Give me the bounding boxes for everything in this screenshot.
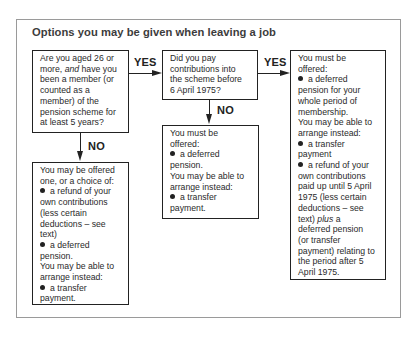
- box-line: deductions – see: [40, 219, 128, 230]
- box-line: the period after 5: [298, 256, 385, 267]
- bullet-item: a transfer: [170, 192, 258, 203]
- yes-connector-2: [258, 73, 282, 74]
- box-line: pension.: [40, 251, 128, 262]
- box-line: pension for your: [298, 85, 385, 96]
- box-line: text) plus a: [298, 214, 385, 225]
- box-line: (less certain: [40, 208, 128, 219]
- box-line: pension scheme for: [40, 107, 128, 118]
- emphasis-and: and: [65, 64, 80, 74]
- box-line: payment.: [40, 293, 128, 304]
- box-line: contributions into: [170, 64, 257, 75]
- box-line: paid up until 5 April: [298, 181, 385, 192]
- emphasis-plus: plus: [317, 214, 333, 224]
- yes-connector-1: [129, 73, 154, 74]
- box-line: own contributions: [40, 197, 128, 208]
- box-line: arrange instead:: [40, 272, 128, 283]
- box-line: member) of the: [40, 96, 128, 107]
- box-line: (or transfer: [298, 235, 385, 246]
- outcome-no-pre-1975-contributions-box: You must be offered: a deferred pension.…: [162, 125, 259, 219]
- bullet-item: a refund of your: [40, 186, 128, 197]
- box-line: at least 5 years?: [40, 117, 128, 128]
- box-line: membership.: [298, 107, 385, 118]
- arrow-down-icon: [77, 151, 83, 161]
- no-label-1: NO: [88, 140, 105, 152]
- box-line: payment.: [170, 203, 258, 214]
- box-line: You must be: [298, 53, 385, 64]
- question-contributions-box: Did you pay contributions into the schem…: [162, 50, 258, 100]
- bullet-item: a transfer: [40, 283, 128, 294]
- box-line: You may be able to: [170, 171, 258, 182]
- outcome-under-26-or-short-membership-box: You may be offered one, or a choice of: …: [32, 162, 129, 305]
- box-line: You may be able to: [40, 261, 128, 272]
- arrow-down-icon: [206, 114, 212, 124]
- box-line: one, or a choice of:: [40, 176, 128, 187]
- box-line: whole period of: [298, 96, 385, 107]
- box-line: arrange instead:: [170, 182, 258, 193]
- box-line: payment: [298, 149, 385, 160]
- question-age-membership-box: Are you aged 26 or more, and have you be…: [32, 50, 129, 133]
- no-label-2: NO: [217, 104, 234, 116]
- yes-label-1: YES: [134, 56, 157, 68]
- box-line: payment) relating to: [298, 246, 385, 257]
- box-line: Did you pay: [170, 53, 257, 64]
- box-line: arrange instead:: [298, 128, 385, 139]
- box-line: text): [40, 229, 128, 240]
- box-line: deductions – see: [298, 203, 385, 214]
- box-line: April 1975.: [298, 267, 385, 278]
- yes-label-2: YES: [264, 56, 287, 68]
- arrow-right-icon: [280, 70, 290, 76]
- box-line: deferred pension: [298, 224, 385, 235]
- box-line: offered:: [298, 64, 385, 75]
- box-line: counted as a: [40, 85, 128, 96]
- bullet-item: a deferred: [40, 240, 128, 251]
- box-line: You may be able to: [298, 117, 385, 128]
- no-connector-1: [80, 133, 81, 153]
- box-line: pension.: [170, 160, 258, 171]
- box-line: offered:: [170, 139, 258, 150]
- box-line: been a member (or: [40, 74, 128, 85]
- box-line: You may be offered: [40, 165, 128, 176]
- box-line: Are you aged 26 or: [40, 53, 128, 64]
- box-line: 1975 (less certain: [298, 192, 385, 203]
- arrow-right-icon: [152, 70, 162, 76]
- bullet-item: a refund of your: [298, 160, 385, 171]
- box-line: 6 April 1975?: [170, 85, 257, 96]
- bullet-item: a deferred: [298, 74, 385, 85]
- bullet-item: a transfer: [298, 139, 385, 150]
- box-line: own contributions: [298, 171, 385, 182]
- bullet-item: a deferred: [170, 149, 258, 160]
- diagram-title: Options you may be given when leaving a …: [32, 26, 276, 38]
- box-line: You must be: [170, 128, 258, 139]
- box-line: the scheme before: [170, 74, 257, 85]
- box-line: more, and have you: [40, 64, 128, 75]
- outcome-contributed-before-1975-box: You must be offered: a deferred pension …: [290, 50, 386, 280]
